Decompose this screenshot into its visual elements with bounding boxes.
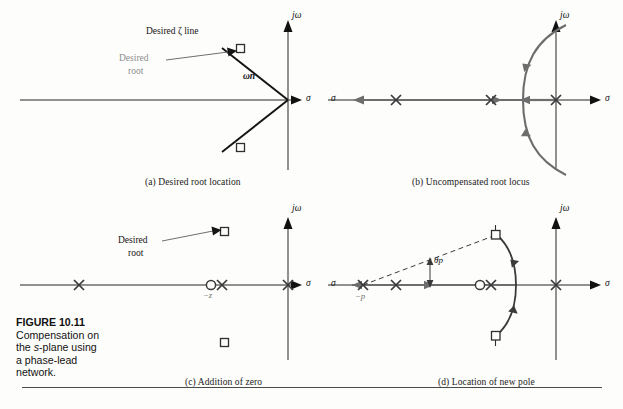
panel-c-real-axis-label: σ (306, 278, 311, 288)
panel-a-omega-n-label: ωn (243, 71, 255, 81)
panel-d-caption: (d) Location of new pole (438, 377, 535, 387)
panel-a-caption: (a) Desired root location (145, 177, 241, 187)
panel-b-real-axis-label: σ (605, 93, 610, 103)
panel-d-theta-text: θp (434, 255, 443, 265)
panel-d-real-axis-label: σ (605, 278, 610, 288)
panel-a-desired-root-label-line1: Desired (119, 53, 149, 63)
figure-root: Desired ζ line Desired root ωn jω σ (a) … (0, 0, 623, 409)
panel-d-desired-root-upper (492, 225, 501, 239)
panel-b-real-axis-label-left: σ (331, 93, 336, 103)
panel-d-diagram (320, 205, 623, 375)
figure-caption-line4: network. (16, 366, 56, 378)
figure-caption-line1: Compensation on (16, 329, 99, 341)
panel-b-imaginary-axis (552, 20, 561, 170)
panel-a-omega-n-text: ωn (243, 71, 255, 81)
figure-number: FIGURE 10.11 (16, 316, 85, 328)
panel-a-real-axis (20, 96, 302, 105)
panel-d-zero (475, 280, 484, 289)
panel-b-imaginary-axis-label: jω (560, 10, 569, 20)
panel-a-imaginary-axis-label: jω (292, 10, 301, 20)
panel-d-theta-label: θp (434, 256, 443, 266)
panel-c-caption: (c) Addition of zero (185, 377, 262, 387)
panel-c-imaginary-axis-label: jω (292, 203, 301, 213)
panel-d-real-axis-label-left: σ (331, 278, 336, 288)
panel-d-pole-label: −p (355, 292, 365, 301)
panel-d-desired-root-lower (492, 332, 501, 347)
figure-caption-line2-post: -plane using (39, 341, 97, 353)
figure-caption-line3: a phase-lead (16, 354, 77, 366)
panel-a-desired-root-label-line2: root (128, 66, 143, 76)
panel-a-desired-root-pointer (166, 48, 237, 61)
panel-c-desired-root-pointer (162, 227, 222, 242)
panel-c-desired-root-label-line2: root (128, 248, 143, 258)
panel-a-desired-root-lower (237, 144, 245, 152)
figure-caption: FIGURE 10.11 Compensation on the s-plane… (16, 316, 136, 379)
panel-a-imaginary-axis (284, 20, 293, 170)
panel-c-zero-label: −z (203, 291, 212, 300)
panel-c-desired-root-label-line1: Desired (118, 235, 148, 245)
panel-b-diagram (320, 0, 623, 175)
panel-d-imaginary-axis-label: jω (560, 203, 569, 213)
panel-c-desired-root-lower (221, 339, 229, 347)
panel-c-zero (206, 280, 215, 289)
panel-c-real-axis (20, 281, 302, 290)
panel-a-zeta-line-label: Desired ζ line (146, 26, 198, 36)
panel-c-desired-root-upper (221, 228, 229, 236)
panel-a-real-axis-label: σ (306, 93, 311, 103)
figure-caption-line2-pre: the (16, 341, 34, 353)
panel-b-caption: (b) Uncompensated root locus (412, 177, 530, 187)
bottom-divider (22, 387, 602, 388)
panel-a-desired-root-upper (237, 45, 245, 53)
